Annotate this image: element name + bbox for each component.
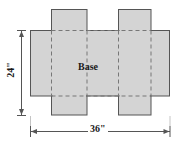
height-dimension-arrow-top <box>19 31 24 37</box>
width-dimension-arrow-right <box>164 129 170 134</box>
width-dimension-arrow-left <box>31 129 37 134</box>
height-dimension-arrow-bottom <box>19 109 24 115</box>
width-dimension-label: 36" <box>88 124 108 134</box>
base-label: Base <box>78 62 98 72</box>
flap-top-right <box>119 10 152 31</box>
flap-top-left <box>52 10 88 31</box>
flap-bottom-right <box>119 96 152 115</box>
height-dimension-label: 24" <box>6 55 16 85</box>
box-net-figure: Base 24" 36" <box>0 0 187 146</box>
flap-bottom-left <box>52 96 88 115</box>
